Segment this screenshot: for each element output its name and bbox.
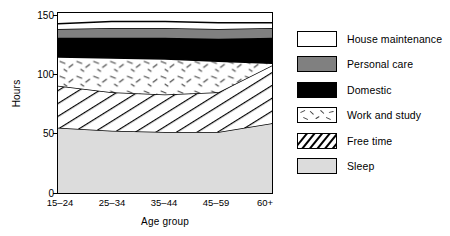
- x-tick-label-3: 35–44: [151, 198, 177, 208]
- x-tick-label-4: 45–59: [203, 198, 229, 208]
- y-tick-label-50: 50: [28, 129, 54, 139]
- y-tick-label-150: 150: [28, 11, 54, 21]
- legend-item-work-and-study: Work and study: [297, 103, 447, 129]
- area-bands: [58, 22, 272, 193]
- legend-item-free-time: Free time: [297, 128, 447, 154]
- legend-swatch-white-hatch: [297, 133, 337, 149]
- y-axis-label: Hours: [11, 64, 22, 124]
- x-tick-label-2: 25–34: [99, 198, 125, 208]
- legend-label: Sleep: [347, 160, 374, 172]
- stacked-area-chart-figure: Hours 0 50 100 150: [0, 0, 450, 236]
- x-tick-label-5: 60+: [257, 198, 273, 208]
- legend-label: Domestic: [347, 84, 392, 96]
- x-axis-label: Age group: [57, 216, 273, 227]
- legend-swatch-gray-solid: [297, 56, 337, 72]
- legend-item-domestic: Domestic: [297, 77, 447, 103]
- stacked-area-svg: [58, 13, 272, 193]
- legend-swatch-lightgray-solid: [297, 158, 337, 174]
- legend-item-personal-care: Personal care: [297, 52, 447, 78]
- chart-plot-region: Hours 0 50 100 150: [0, 0, 290, 236]
- y-tick-label-100: 100: [28, 70, 54, 80]
- x-tick-label-1: 15–24: [47, 198, 73, 208]
- legend-item-house-maintenance: House maintenance: [297, 26, 447, 52]
- chart-legend: House maintenancePersonal careDomesticWo…: [297, 26, 447, 179]
- legend-swatch-white-solid: [297, 31, 337, 47]
- legend-label: House maintenance: [347, 33, 442, 45]
- legend-swatch-black-solid: [297, 82, 337, 98]
- plot-frame: [57, 12, 273, 194]
- legend-label: Free time: [347, 135, 392, 147]
- area-band-sleep: [58, 123, 272, 193]
- legend-item-sleep: Sleep: [297, 154, 447, 180]
- area-band-personal-care: [58, 28, 272, 39]
- legend-label: Personal care: [347, 58, 413, 70]
- legend-swatch-white-dashes: [297, 107, 337, 123]
- legend-label: Work and study: [347, 109, 421, 121]
